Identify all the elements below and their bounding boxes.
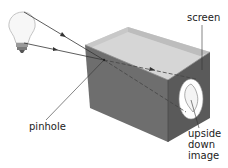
- label-image-line1: upside: [188, 128, 221, 139]
- label-screen: screen: [187, 12, 220, 23]
- label-pinhole: pinhole: [29, 121, 66, 132]
- label-image-line3: image: [188, 150, 221, 161]
- light-bulb-icon: [9, 12, 35, 53]
- label-upside-down-image: upside down image: [188, 128, 221, 161]
- label-image-line2: down: [188, 139, 221, 150]
- screen: [179, 79, 203, 119]
